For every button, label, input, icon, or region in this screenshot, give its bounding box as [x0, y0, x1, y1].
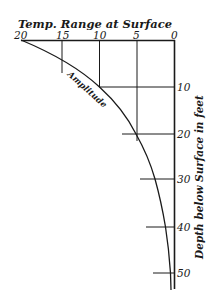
- y-tick-50: 50: [177, 267, 191, 279]
- y-tick-40: 40: [176, 221, 191, 233]
- x-tick-10: 10: [93, 29, 107, 41]
- y-tick-labels: 10 20 30 40 50: [176, 81, 191, 279]
- y-tick-10: 10: [177, 81, 191, 93]
- x-tick-5: 5: [133, 29, 140, 41]
- amplitude-curve: [21, 40, 171, 290]
- y-tick-30: 30: [177, 173, 191, 185]
- x-tick-20: 20: [13, 29, 28, 41]
- y-tick-20: 20: [176, 128, 191, 140]
- chart: Temp. Range at Surface 20 15 10 5 0 Ampl…: [0, 0, 214, 306]
- amplitude-label: Amplitude: [65, 68, 110, 110]
- x-tick-15: 15: [56, 29, 70, 41]
- x-tick-0: 0: [171, 29, 178, 41]
- y-axis-label: Depth below Surface in feet: [193, 95, 205, 260]
